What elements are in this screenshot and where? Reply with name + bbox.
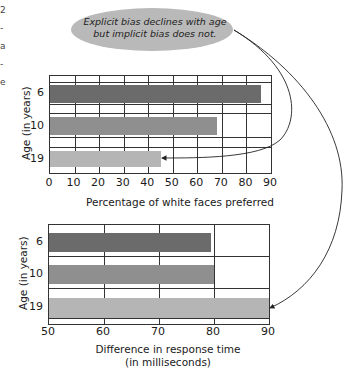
callout-arrows (0, 0, 352, 374)
arrow-to-top-19-bar (162, 30, 292, 158)
arrow-to-bottom-19-bar (234, 30, 342, 308)
